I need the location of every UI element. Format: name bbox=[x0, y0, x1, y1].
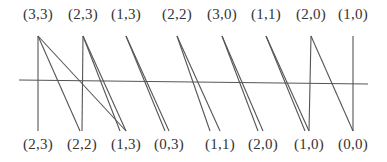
bottom-node-label: (1,1) bbox=[205, 136, 235, 153]
edge-line bbox=[82, 36, 83, 131]
bottom-node-label: (1,0) bbox=[294, 136, 324, 153]
top-node-label: (1,0) bbox=[338, 6, 368, 23]
edge-line bbox=[83, 36, 120, 131]
edge-line bbox=[126, 36, 169, 131]
edge-line bbox=[222, 36, 263, 131]
top-node-label: (3,3) bbox=[23, 6, 53, 23]
bottom-node-label: (0,3) bbox=[154, 136, 184, 153]
bottom-node-label: (1,3) bbox=[111, 136, 141, 153]
top-node-label: (2,2) bbox=[162, 6, 192, 23]
edge-line bbox=[222, 36, 258, 131]
edge-line bbox=[177, 36, 220, 131]
edge-line bbox=[38, 36, 80, 131]
bottom-node-label: (2,2) bbox=[67, 136, 97, 153]
top-node-label: (1,1) bbox=[251, 6, 281, 23]
top-node-label: (1,3) bbox=[111, 6, 141, 23]
bottom-node-label: (2,3) bbox=[23, 136, 53, 153]
bottom-node-label: (0,0) bbox=[338, 136, 368, 153]
top-node-label: (3,0) bbox=[207, 6, 237, 23]
transition-diagram bbox=[0, 0, 387, 162]
top-node-label: (2,3) bbox=[68, 6, 98, 23]
edge-line bbox=[177, 36, 210, 131]
top-node-label: (2,0) bbox=[296, 6, 326, 23]
bottom-node-label: (2,0) bbox=[248, 136, 278, 153]
edge-line bbox=[83, 36, 126, 131]
